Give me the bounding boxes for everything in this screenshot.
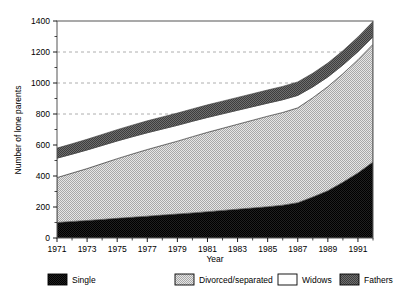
x-tick-label: 1985 (258, 244, 277, 254)
y-tick-label: 800 (36, 109, 50, 119)
y-tick-label: 0 (45, 233, 50, 243)
lone-parents-stacked-area-chart: 0200400600800100012001400 19711973197519… (0, 0, 395, 304)
y-tick-label: 1200 (31, 47, 50, 57)
x-tick-label: 1975 (108, 244, 127, 254)
x-tick-label: 1977 (138, 244, 157, 254)
legend-label: Fathers (364, 275, 393, 285)
legend-swatch-widows (278, 274, 297, 285)
x-tick-label: 1971 (48, 244, 67, 254)
y-tick-label: 600 (36, 140, 50, 150)
y-tick-label: 200 (36, 202, 50, 212)
y-tick-label: 400 (36, 171, 50, 181)
x-tick-label: 1979 (168, 244, 187, 254)
legend-label: Divorced/separated (199, 275, 273, 285)
legend-swatch-single (48, 274, 67, 285)
x-tick-label: 1973 (78, 244, 97, 254)
y-tick-label: 1400 (31, 16, 50, 26)
x-tick-label: 1989 (318, 244, 337, 254)
x-axis-title: Year (206, 254, 223, 264)
x-axis-ticks: 1971197319751977197919811983198519871989… (48, 238, 373, 254)
legend-label: Single (72, 275, 96, 285)
chart-figure: 0200400600800100012001400 19711973197519… (0, 0, 395, 304)
legend-swatch-fathers (340, 274, 359, 285)
x-tick-label: 1981 (198, 244, 217, 254)
legend-swatch-divorced-separated (175, 274, 194, 285)
x-tick-label: 1987 (288, 244, 307, 254)
legend-label: Widows (302, 275, 332, 285)
y-axis-ticks: 0200400600800100012001400 (31, 16, 57, 243)
y-axis-title: Number of lone parents (13, 86, 23, 175)
x-tick-label: 1983 (228, 244, 247, 254)
y-tick-label: 1000 (31, 78, 50, 88)
x-tick-label: 1991 (348, 244, 367, 254)
chart-legend: SingleDivorced/separatedWidowsFathers (48, 274, 393, 285)
